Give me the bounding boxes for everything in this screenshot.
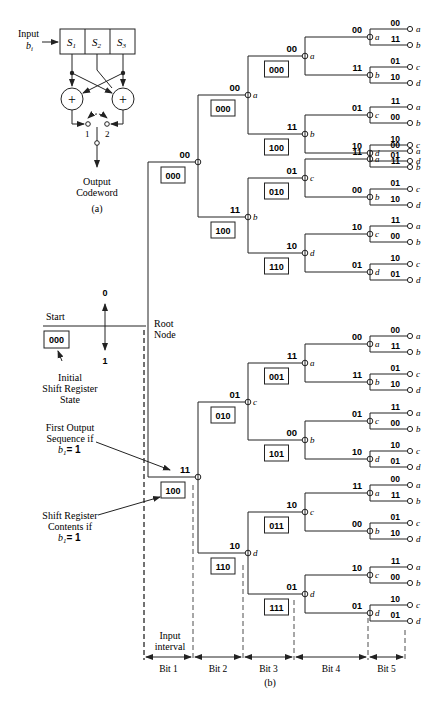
leaf-label: d xyxy=(416,462,421,472)
node-label: b xyxy=(375,192,380,202)
leaf-output: 00 xyxy=(391,474,401,484)
branch-output: 00 xyxy=(352,25,362,35)
leaf-node xyxy=(407,80,412,85)
leaf-output: 11 xyxy=(391,215,400,225)
node-label: c xyxy=(310,507,314,517)
branch-output: 10 xyxy=(286,240,297,251)
branch-output: 11 xyxy=(352,481,362,491)
leaf-label: d xyxy=(416,78,421,88)
leaf-label: b xyxy=(416,237,421,247)
commutator xyxy=(95,141,100,146)
node-label: d xyxy=(375,608,380,618)
branch-output: 01 xyxy=(352,260,362,270)
state-value: 010 xyxy=(215,411,230,421)
leaf-label: c xyxy=(416,446,420,456)
leaf-label: b xyxy=(416,578,421,588)
leaf-node xyxy=(407,498,412,503)
leaf-node xyxy=(407,164,412,169)
node-label: c xyxy=(375,570,379,580)
node-label: b xyxy=(375,377,380,387)
leaf-label: a xyxy=(416,331,421,341)
node-label: c xyxy=(375,416,379,426)
svg-text:Node: Node xyxy=(154,329,176,340)
bit-label: Bit 5 xyxy=(377,664,396,674)
branch-output: 01 xyxy=(286,165,297,176)
bit-label: Bit 4 xyxy=(322,664,341,674)
leaf-node xyxy=(407,120,412,125)
leaf-node xyxy=(407,602,412,607)
branch-output: 01 xyxy=(286,581,297,592)
node-label: a xyxy=(375,32,380,42)
leaf-node xyxy=(407,536,412,541)
svg-text:First Output: First Output xyxy=(46,422,95,433)
leaf-node xyxy=(407,261,412,266)
branch-output: 11 xyxy=(287,350,298,361)
node-label: b xyxy=(310,129,315,139)
leaf-output: 11 xyxy=(391,156,400,166)
branch-output: 10 xyxy=(352,563,362,573)
state-value: 101 xyxy=(269,449,284,459)
svg-text:State: State xyxy=(60,394,81,405)
root-label: Root xyxy=(154,318,174,329)
bit-label: Bit 2 xyxy=(209,664,228,674)
branch-output: 11 xyxy=(352,63,362,73)
leaf-output: 11 xyxy=(391,34,400,44)
leaf-label: c xyxy=(416,259,420,269)
node-label: a xyxy=(310,51,315,61)
state-value: 000 xyxy=(269,65,284,75)
leaf-output: 01 xyxy=(391,456,401,466)
leaf-node xyxy=(407,186,412,191)
leaf-node xyxy=(407,387,412,392)
leaf-label: b xyxy=(416,40,421,50)
leaf-label: b xyxy=(416,496,421,506)
leaf-node xyxy=(407,564,412,569)
state-value: 100 xyxy=(215,226,230,236)
leaf-label: d xyxy=(416,200,421,210)
leaf-node xyxy=(407,42,412,47)
leaf-output: 00 xyxy=(391,140,401,150)
svg-text:Shift Register: Shift Register xyxy=(42,510,98,521)
node-label: a xyxy=(375,154,380,164)
start-state: 000 xyxy=(49,335,64,345)
leaf-label: b xyxy=(416,424,421,434)
leaf-output: 01 xyxy=(391,269,401,279)
up-zero-label: 0 xyxy=(102,288,107,298)
branch-output: 01 xyxy=(352,409,362,419)
leaf-output: 10 xyxy=(391,594,401,604)
leaf-output: 00 xyxy=(391,112,401,122)
register-s3: S3 xyxy=(117,36,127,50)
leaf-label: a xyxy=(416,562,421,572)
branch-output: 00 xyxy=(286,427,297,438)
leaf-label: b xyxy=(416,118,421,128)
switch-label-2: 2 xyxy=(105,129,110,139)
leaf-label: c xyxy=(416,600,420,610)
branch-output: 11 xyxy=(180,464,191,475)
branch-output: 01 xyxy=(229,389,240,400)
branch-output: 00 xyxy=(352,185,362,195)
leaf-output: 00 xyxy=(391,572,401,582)
node-label: d xyxy=(253,548,258,558)
leaf-output: 01 xyxy=(391,610,401,620)
state-value: 100 xyxy=(269,143,284,153)
codeword-label: Codeword xyxy=(76,187,118,198)
encoder-diagram: Input bi S1 S2 S3 + + 1 2 Out xyxy=(18,28,135,215)
state-value: 000 xyxy=(165,171,180,181)
code-tree: 000001110000000a11100b01010c10110d00000a… xyxy=(148,18,421,626)
svg-text:+: + xyxy=(119,92,127,107)
node-label: a xyxy=(375,339,380,349)
leaf-label: d xyxy=(416,275,421,285)
state-value: 010 xyxy=(269,187,284,197)
leaf-output: 01 xyxy=(391,363,401,373)
svg-text:Sequence if: Sequence if xyxy=(47,433,95,444)
state-value: 110 xyxy=(269,262,284,272)
branch-output: 00 xyxy=(179,149,190,160)
leaf-label: a xyxy=(416,146,421,156)
leaf-output: 10 xyxy=(391,440,401,450)
svg-text:Shift Register: Shift Register xyxy=(42,383,98,394)
leaf-node xyxy=(407,349,412,354)
leaf-label: b xyxy=(416,347,421,357)
leaf-label: c xyxy=(416,369,420,379)
leaf-node xyxy=(407,64,412,69)
branch-output: 10 xyxy=(286,499,297,510)
tree-caption: (b) xyxy=(264,677,276,689)
